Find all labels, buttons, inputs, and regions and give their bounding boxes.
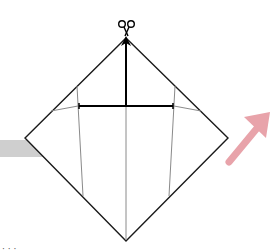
pink-arrow-up-right-icon <box>229 112 270 162</box>
origami-diagram <box>0 0 279 252</box>
scissors-icon <box>119 21 135 36</box>
caption-text: · · · <box>2 244 16 252</box>
